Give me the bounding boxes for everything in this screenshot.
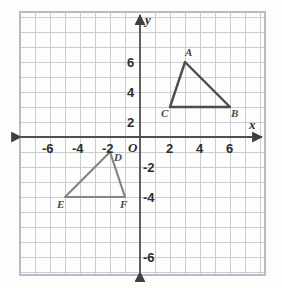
y-tick-label--2: -2 bbox=[143, 161, 155, 174]
y-axis-label: y bbox=[145, 13, 151, 26]
vertex-label-a: A bbox=[185, 47, 192, 58]
origin-label: O bbox=[128, 141, 137, 154]
x-tick-label--2: -2 bbox=[102, 142, 114, 155]
x-tick-label--6: -6 bbox=[42, 142, 54, 155]
vertex-label-d: D bbox=[114, 152, 122, 163]
x-tick-label-2: 2 bbox=[166, 142, 173, 155]
y-tick-label-2: 2 bbox=[127, 116, 134, 129]
vertex-label-c: C bbox=[161, 108, 168, 119]
coordinate-plane-figure: -6 -4 -2 2 4 6 6 4 2 -2 -4 -6 O x y A B … bbox=[0, 0, 282, 288]
vertex-label-e: E bbox=[57, 199, 64, 210]
y-tick-label--6: -6 bbox=[143, 251, 155, 264]
y-tick-label--4: -4 bbox=[143, 191, 155, 204]
x-tick-label-6: 6 bbox=[226, 142, 233, 155]
vertex-label-b: B bbox=[231, 108, 238, 119]
x-tick-label-4: 4 bbox=[196, 142, 203, 155]
y-tick-label-4: 4 bbox=[127, 86, 134, 99]
x-tick-label--4: -4 bbox=[72, 142, 84, 155]
vertex-label-f: F bbox=[120, 199, 127, 210]
x-axis-label: x bbox=[249, 118, 256, 131]
y-tick-label-6: 6 bbox=[127, 56, 134, 69]
